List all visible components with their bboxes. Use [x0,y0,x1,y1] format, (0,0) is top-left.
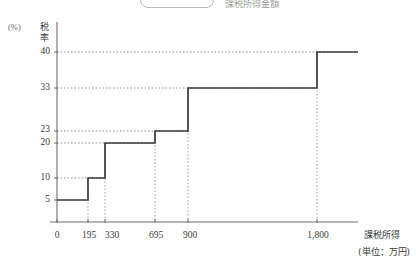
ytick-label-5: 5 [45,194,50,204]
x-axis-title: 課税所得 [364,229,400,240]
top-cropped-header: 課税所得金額 [0,0,416,9]
ytick-label-20: 20 [41,137,51,147]
ytick-label-23: 23 [41,124,51,134]
ytick-label-40: 40 [41,46,51,56]
y-axis-unit-label: (%) [8,22,21,32]
xtick-label-0: 0 [55,230,60,240]
header-pill-shape [140,0,214,8]
tax-rate-step-path [57,52,358,200]
xtick-label-330: 330 [105,230,120,240]
xtick-label-1800: 1,800 [307,230,329,240]
xtick-label-195: 195 [82,230,97,240]
xtick-label-900: 900 [183,230,198,240]
x-axis-unit-note: (単位：万円) [358,246,410,257]
ytick-label-33: 33 [41,82,51,92]
xtick-label-695: 695 [149,230,164,240]
y-axis-title-char-2: 率 [40,32,49,43]
chart-canvas: 40 33 23 20 10 5 0 195 330 695 900 1,800… [0,0,416,265]
tax-rate-step-chart: 課税所得金額 40 33 [0,0,416,265]
header-cut-label: 課税所得金額 [225,0,279,9]
ytick-label-10: 10 [41,172,51,182]
y-axis-title-char-1: 税 [40,21,49,32]
